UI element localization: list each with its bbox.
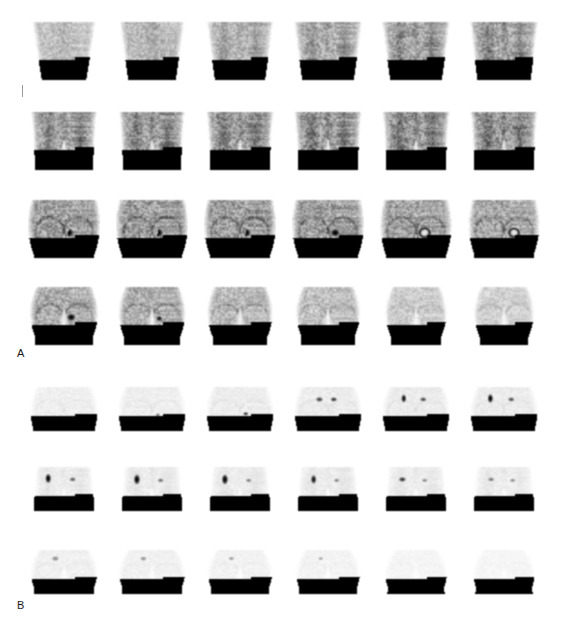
slice-image	[116, 198, 188, 260]
slice-image	[204, 285, 276, 347]
slice-image	[380, 548, 452, 596]
slice-tile	[204, 110, 276, 172]
slice-tile	[116, 110, 188, 172]
slice-tile	[468, 20, 540, 82]
slice-tile	[204, 548, 276, 596]
slice-tile	[116, 285, 188, 347]
slice-image	[116, 110, 188, 172]
slice-tile	[28, 548, 100, 596]
panel-b-label: B	[17, 600, 25, 611]
slice-tile	[28, 110, 100, 172]
slice-tile	[204, 285, 276, 347]
slice-tile	[292, 198, 364, 260]
slice-tile	[468, 548, 540, 596]
slice-tile	[28, 385, 100, 433]
figure-canvas: A B	[0, 0, 563, 632]
slice-image	[204, 198, 276, 260]
slice-image	[380, 285, 452, 347]
slice-tile	[292, 548, 364, 596]
slice-tile	[204, 198, 276, 260]
slice-image	[28, 198, 100, 260]
slice-image	[28, 465, 100, 513]
slice-image	[380, 385, 452, 433]
slice-image	[468, 548, 540, 596]
slice-image	[380, 198, 452, 260]
slice-image	[28, 548, 100, 596]
slice-tile	[116, 20, 188, 82]
slice-image	[204, 548, 276, 596]
slice-tile	[204, 20, 276, 82]
slice-image	[292, 465, 364, 513]
slice-tile	[116, 198, 188, 260]
slice-tile	[292, 285, 364, 347]
slice-image	[292, 110, 364, 172]
slice-tile	[380, 20, 452, 82]
slice-tile	[116, 548, 188, 596]
slice-image	[116, 385, 188, 433]
slice-tile	[468, 110, 540, 172]
slice-image	[116, 465, 188, 513]
slice-image	[116, 20, 188, 82]
slice-image	[28, 285, 100, 347]
slice-tile	[380, 548, 452, 596]
slice-tile	[204, 385, 276, 433]
slice-tile	[204, 465, 276, 513]
slice-tile	[468, 285, 540, 347]
slice-tile	[292, 110, 364, 172]
slice-tile	[468, 465, 540, 513]
slice-tile	[380, 465, 452, 513]
slice-tile	[28, 20, 100, 82]
slice-image	[204, 385, 276, 433]
slice-tile	[468, 385, 540, 433]
slice-image	[28, 110, 100, 172]
slice-image	[292, 20, 364, 82]
slice-image	[468, 285, 540, 347]
slice-image	[292, 548, 364, 596]
slice-image	[28, 20, 100, 82]
slice-image	[204, 20, 276, 82]
slice-image	[116, 285, 188, 347]
slice-tile	[292, 385, 364, 433]
slice-image	[116, 548, 188, 596]
slice-tile	[380, 385, 452, 433]
slice-image	[28, 385, 100, 433]
slice-image	[292, 285, 364, 347]
slice-image	[468, 385, 540, 433]
slice-tile	[292, 20, 364, 82]
slice-tile	[28, 465, 100, 513]
panel-a-label: A	[17, 348, 25, 359]
slice-tile	[116, 465, 188, 513]
slice-image	[380, 110, 452, 172]
slice-image	[380, 20, 452, 82]
slice-image	[380, 465, 452, 513]
slice-image	[204, 465, 276, 513]
slice-tile	[292, 465, 364, 513]
slice-tile	[28, 198, 100, 260]
slice-image	[468, 465, 540, 513]
slice-image	[292, 385, 364, 433]
slice-tile	[380, 198, 452, 260]
slice-image	[292, 198, 364, 260]
scale-tick-marker	[22, 85, 23, 97]
slice-image	[468, 198, 540, 260]
slice-tile	[380, 285, 452, 347]
slice-image	[468, 20, 540, 82]
slice-image	[204, 110, 276, 172]
slice-image	[468, 110, 540, 172]
slice-tile	[116, 385, 188, 433]
slice-tile	[380, 110, 452, 172]
slice-tile	[468, 198, 540, 260]
slice-tile	[28, 285, 100, 347]
